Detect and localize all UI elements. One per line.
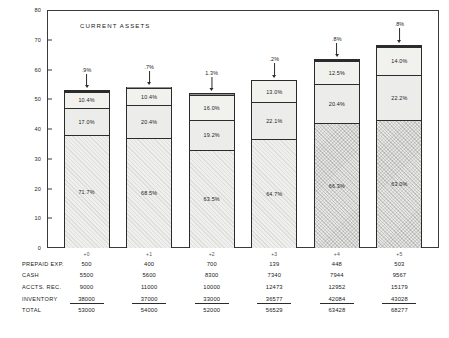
table-cell: 12952 bbox=[328, 284, 345, 290]
y-axis-tick-label: 50 bbox=[34, 96, 41, 102]
table-cell: 10000 bbox=[203, 284, 220, 290]
callout-leader-line bbox=[149, 71, 150, 83]
bar-segment-percent-label: 63.0% bbox=[391, 181, 407, 187]
stacked-bar[interactable]: 12.5%20.4%66.3% bbox=[314, 59, 360, 248]
bar-callout-prepaid: .2% bbox=[269, 56, 279, 78]
x-axis-tick-label: +3 bbox=[271, 251, 277, 257]
bar-segment-percent-label: 64.7% bbox=[266, 191, 282, 197]
bar-segment-inventory[interactable]: 68.5% bbox=[127, 138, 171, 248]
bar-segment-cash[interactable]: 16.0% bbox=[190, 95, 234, 120]
bar-column[interactable]: .8%14.0%22.2%63.0% bbox=[376, 45, 422, 248]
bar-segment-percent-label: 13.0% bbox=[266, 89, 282, 95]
x-axis-tick-label: +0 bbox=[84, 251, 90, 257]
y-axis-tick-label: 30 bbox=[34, 156, 41, 162]
bar-segment-accts-rec[interactable]: 19.2% bbox=[190, 120, 234, 150]
stacked-bar[interactable]: 10.4%20.4%68.5% bbox=[126, 87, 172, 248]
callout-arrowhead bbox=[147, 82, 151, 85]
table-cell: 700 bbox=[207, 261, 217, 267]
bar-callout-label: .9% bbox=[82, 67, 92, 73]
x-axis-tick-label: +4 bbox=[334, 251, 340, 257]
table-cell: 5500 bbox=[80, 272, 94, 278]
table-cell: 43028 bbox=[391, 296, 408, 302]
bar-segment-accts-rec[interactable]: 22.2% bbox=[377, 75, 421, 120]
bar-segment-percent-label: 22.2% bbox=[391, 95, 407, 101]
y-axis-tick-label: 80 bbox=[34, 7, 41, 13]
table-cell: 36577 bbox=[266, 296, 283, 302]
table-cell: 56529 bbox=[266, 307, 283, 313]
table-cell: 15179 bbox=[391, 284, 408, 290]
bar-segment-cash[interactable]: 10.4% bbox=[127, 88, 171, 105]
bar-segment-cash[interactable]: 10.4% bbox=[65, 92, 109, 108]
table-cell: 52000 bbox=[203, 307, 220, 313]
table-row: CASH550056008300734079449567 bbox=[0, 270, 449, 282]
bar-segment-percent-label: 16.0% bbox=[204, 105, 220, 111]
stacked-bar[interactable]: 10.4%17.0%71.7% bbox=[64, 90, 110, 248]
bar-segment-inventory[interactable]: 64.7% bbox=[252, 139, 296, 248]
table-row: PREPAID EXP.500400700139448503 bbox=[0, 258, 449, 270]
bar-segment-percent-label: 66.3% bbox=[329, 183, 345, 189]
bar-segment-cash[interactable]: 12.5% bbox=[315, 61, 359, 85]
bar-segment-percent-label: 22.1% bbox=[266, 118, 282, 124]
table-cell: 9567 bbox=[393, 272, 407, 278]
x-axis-tick-label: +2 bbox=[209, 251, 215, 257]
y-axis-tick-label: 20 bbox=[34, 186, 41, 192]
bar-segment-cash[interactable]: 13.0% bbox=[252, 80, 296, 102]
stacked-bar[interactable]: 16.0%19.2%63.5% bbox=[189, 93, 235, 248]
bar-segment-accts-rec[interactable]: 20.4% bbox=[315, 84, 359, 122]
bar-callout-prepaid: .8% bbox=[394, 21, 404, 43]
bar-segment-inventory[interactable]: 63.0% bbox=[377, 120, 421, 248]
bar-segment-inventory[interactable]: 66.3% bbox=[315, 123, 359, 248]
table-cell: 500 bbox=[82, 261, 92, 267]
bar-segment-percent-label: 14.0% bbox=[391, 58, 407, 64]
bar-callout-prepaid: .8% bbox=[332, 36, 342, 58]
stacked-bar[interactable]: 13.0%22.1%64.7% bbox=[251, 80, 297, 248]
stacked-bar[interactable]: 14.0%22.2%63.0% bbox=[376, 45, 422, 248]
bar-segment-percent-label: 20.4% bbox=[141, 119, 157, 125]
table-row-label: PREPAID EXP. bbox=[22, 261, 64, 267]
bar-segment-percent-label: 19.2% bbox=[204, 132, 220, 138]
table-cell: 12473 bbox=[266, 284, 283, 290]
bar-callout-label: .8% bbox=[332, 36, 342, 42]
bar-segment-cash[interactable]: 14.0% bbox=[377, 47, 421, 75]
y-axis-tick-label: 10 bbox=[34, 215, 41, 221]
table-row: INVENTORY380003700033000365774208443028 bbox=[0, 293, 449, 305]
table-row-label: CASH bbox=[22, 272, 39, 278]
x-axis-tick-label: +5 bbox=[396, 251, 402, 257]
bar-callout-label: 1.3% bbox=[205, 70, 218, 76]
bar-segment-accts-rec[interactable]: 20.4% bbox=[127, 105, 171, 138]
bar-segment-percent-label: 71.7% bbox=[78, 189, 94, 195]
table-cell: 42084 bbox=[328, 296, 345, 302]
bar-segment-percent-label: 17.0% bbox=[78, 119, 94, 125]
table-cell: 7944 bbox=[330, 272, 344, 278]
table-cell: 8300 bbox=[205, 272, 219, 278]
bar-segment-inventory[interactable]: 71.7% bbox=[65, 135, 109, 248]
bar-column[interactable]: .7%10.4%20.4%68.5% bbox=[126, 87, 172, 248]
table-cell: 400 bbox=[144, 261, 154, 267]
bar-callout-label: .7% bbox=[144, 64, 154, 70]
table-cell: 139 bbox=[269, 261, 279, 267]
bar-column[interactable]: .2%13.0%22.1%64.7% bbox=[251, 80, 297, 248]
x-axis-tick-label: +1 bbox=[146, 251, 152, 257]
callout-leader-line bbox=[336, 43, 337, 55]
bar-callout-prepaid: .9% bbox=[82, 67, 92, 89]
bar-segment-inventory[interactable]: 63.5% bbox=[190, 150, 234, 248]
table-cell: 9000 bbox=[80, 284, 94, 290]
y-axis-tick-label: 70 bbox=[34, 37, 41, 43]
bar-segment-percent-label: 10.4% bbox=[141, 94, 157, 100]
y-axis-tick-label: 60 bbox=[34, 67, 41, 73]
bar-segment-accts-rec[interactable]: 22.1% bbox=[252, 102, 296, 139]
bar-column[interactable]: 1.3%16.0%19.2%63.5% bbox=[189, 93, 235, 248]
table-cell: 68277 bbox=[391, 307, 408, 313]
data-table: PREPAID EXP.500400700139448503CASH550056… bbox=[0, 258, 449, 316]
callout-arrowhead bbox=[397, 40, 401, 43]
bar-segment-accts-rec[interactable]: 17.0% bbox=[65, 108, 109, 135]
bar-callout-label: .8% bbox=[394, 21, 404, 27]
table-cell: 37000 bbox=[141, 296, 158, 302]
bar-column[interactable]: .9%10.4%17.0%71.7% bbox=[64, 90, 110, 248]
chart-plot-area: CURRENT ASSETS 01020304050607080 .9%10.4… bbox=[47, 10, 439, 248]
table-cell: 54000 bbox=[141, 307, 158, 313]
callout-leader-line bbox=[399, 28, 400, 40]
bar-column[interactable]: .8%12.5%20.4%66.3% bbox=[314, 59, 360, 248]
y-axis-tick-label: 40 bbox=[34, 126, 41, 132]
callout-arrowhead bbox=[335, 54, 339, 57]
